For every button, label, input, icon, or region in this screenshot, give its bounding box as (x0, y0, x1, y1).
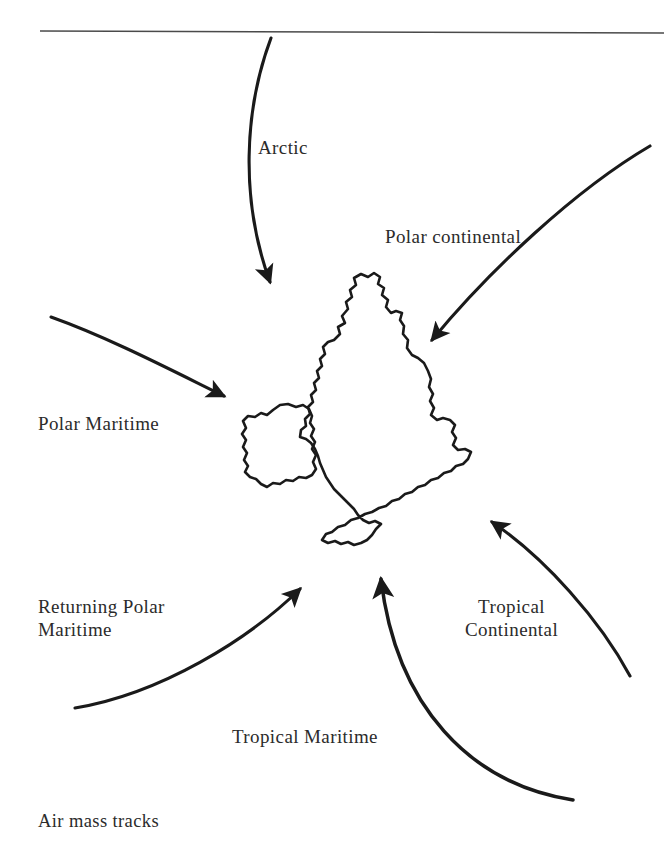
british-isles-outline (242, 269, 471, 545)
label-tropical-continental: TropicalContinental (465, 595, 558, 641)
figure-page: Arctic Polar continental Polar Maritime … (0, 0, 664, 865)
label-tropical-maritime: Tropical Maritime (232, 725, 378, 748)
label-tropical-cont-line1: Tropical (478, 596, 545, 617)
figure-caption: Air mass tracks (38, 811, 159, 832)
label-returning-polar-maritime: Returning PolarMaritime (38, 595, 165, 641)
ireland (242, 404, 316, 487)
arrow-arctic (249, 38, 271, 282)
horizontal-rule (40, 31, 664, 33)
label-arctic: Arctic (258, 136, 308, 159)
label-returning-polar-line2: Maritime (38, 619, 112, 640)
label-tropical-cont-line2: Continental (465, 619, 558, 640)
label-polar-continental: Polar continental (385, 225, 521, 248)
label-returning-polar-line1: Returning Polar (38, 596, 165, 617)
arrow-polar-maritime (51, 317, 224, 396)
label-polar-maritime: Polar Maritime (38, 412, 159, 435)
